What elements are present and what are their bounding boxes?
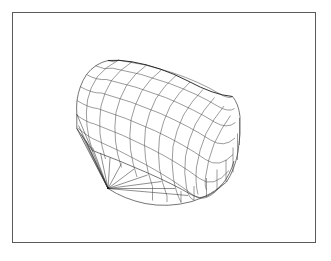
figure-root [0, 0, 331, 261]
mesh-top-surface-v-lines [86, 60, 230, 202]
mesh-top-surface-u-lines [77, 60, 236, 198]
mesh-apex-vertex [107, 187, 109, 189]
mesh-outline-silhouette [77, 60, 241, 205]
mesh-radial-fan-lines [77, 114, 188, 196]
mesh-side-wall-verticals [153, 118, 240, 203]
wireframe-surface-plot [0, 0, 331, 261]
